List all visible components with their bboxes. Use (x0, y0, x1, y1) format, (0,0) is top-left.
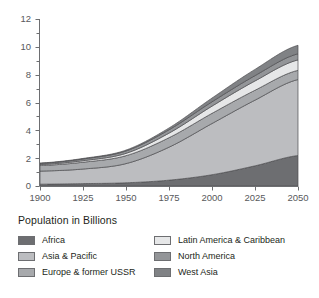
plot-area: 024681012 1900192519501975200020252050 (0, 0, 319, 210)
legend-swatch (154, 236, 171, 245)
legend-item-label: Asia & Pacific (42, 252, 97, 261)
legend-item-label: North America (178, 252, 235, 261)
legend-item-label: Africa (42, 236, 65, 245)
legend-item[interactable]: Europe & former USSR (18, 268, 154, 277)
x-axis-tick-labels: 1900192519501975200020252050 (29, 192, 308, 203)
x-tick-label: 1900 (29, 192, 50, 203)
stacked-areas (40, 45, 298, 186)
population-stacked-area-chart: 024681012 1900192519501975200020252050 P… (0, 0, 319, 298)
legend-swatch (18, 268, 35, 277)
y-tick-label: 6 (26, 97, 31, 108)
legend-swatch (18, 236, 35, 245)
chart-legend: Population in Billions AfricaLatin Ameri… (18, 214, 310, 280)
chart-svg: 024681012 1900192519501975200020252050 (0, 0, 319, 210)
legend-items: AfricaLatin America & CaribbeanAsia & Pa… (18, 232, 310, 280)
y-tick-label: 0 (26, 180, 31, 191)
x-tick-label: 2050 (287, 192, 308, 203)
legend-item[interactable]: Latin America & Caribbean (154, 236, 314, 245)
y-tick-label: 4 (26, 125, 31, 136)
x-tick-label: 1925 (72, 192, 93, 203)
legend-swatch (154, 252, 171, 261)
y-tick-label: 10 (20, 41, 31, 52)
x-tick-label: 2000 (201, 192, 222, 203)
legend-item[interactable]: North America (154, 252, 314, 261)
y-tick-label: 12 (20, 13, 31, 24)
x-tick-label: 2025 (244, 192, 265, 203)
legend-item-label: West Asia (178, 268, 218, 277)
legend-title: Population in Billions (18, 214, 310, 226)
x-tick-label: 1950 (115, 192, 136, 203)
y-tick-label: 2 (26, 153, 31, 164)
y-axis-tick-labels: 024681012 (20, 13, 31, 191)
legend-item[interactable]: West Asia (154, 268, 314, 277)
legend-swatch (18, 252, 35, 261)
legend-item[interactable]: Africa (18, 236, 154, 245)
legend-item-label: Europe & former USSR (42, 268, 136, 277)
y-tick-label: 8 (26, 69, 31, 80)
x-tick-label: 1975 (158, 192, 179, 203)
legend-item[interactable]: Asia & Pacific (18, 252, 154, 261)
legend-swatch (154, 268, 171, 277)
legend-item-label: Latin America & Caribbean (178, 236, 285, 245)
